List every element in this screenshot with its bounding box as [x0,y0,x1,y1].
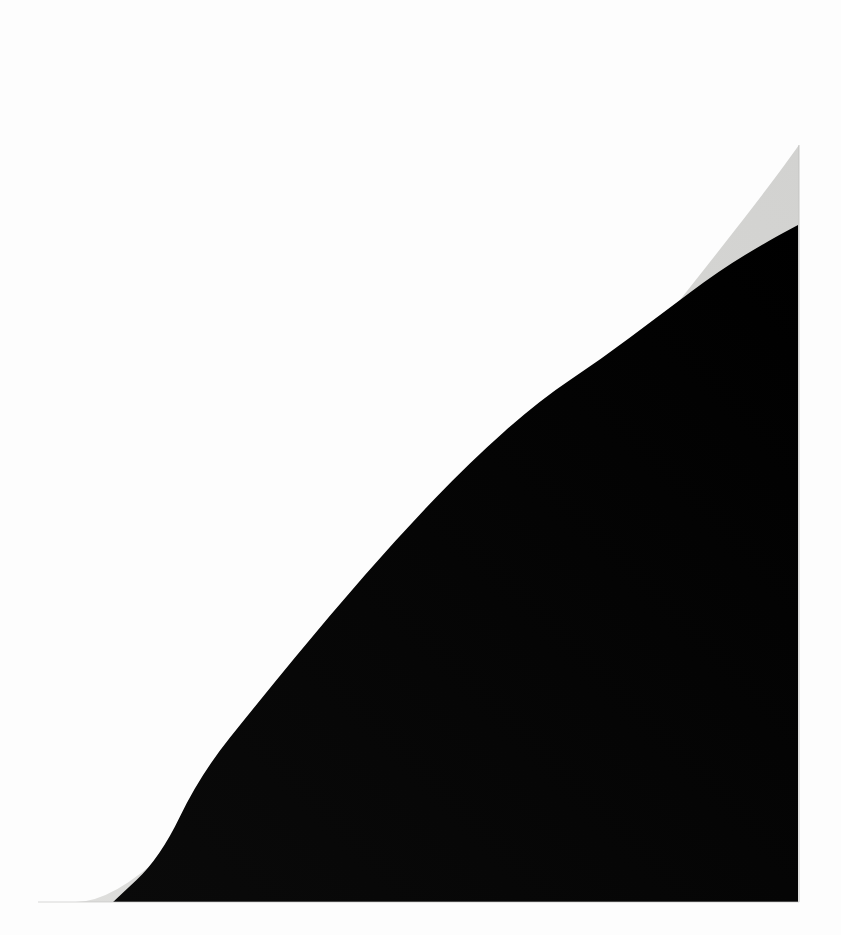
scan-vector-layer [0,0,841,935]
scanned-page-canvas [0,0,841,935]
